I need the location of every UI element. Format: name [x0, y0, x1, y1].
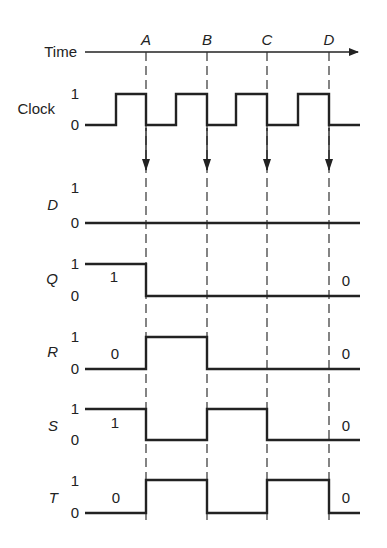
waveform	[85, 94, 360, 125]
waveform	[85, 337, 360, 369]
signal-t: T 1 0 0 0	[49, 472, 360, 521]
clock-edge-arrows	[146, 128, 329, 170]
start-value: 1	[111, 414, 119, 431]
low-label: 0	[71, 116, 79, 133]
end-value: 0	[342, 345, 350, 362]
start-value: 0	[112, 489, 120, 506]
waveform	[85, 409, 360, 440]
time-axis-label: Time	[44, 43, 77, 60]
end-value: 0	[342, 417, 350, 434]
start-value: 0	[111, 345, 119, 362]
signal-d: D 1 0	[47, 179, 360, 231]
signal-name: Q	[46, 270, 58, 287]
signal-name: R	[47, 343, 58, 360]
signal-s: S 1 0 1 0	[48, 400, 360, 448]
high-label: 1	[71, 472, 79, 489]
signal-name: S	[48, 417, 58, 434]
marker-b: B	[202, 31, 212, 48]
signal-clock: Clock 1 0	[17, 85, 360, 133]
end-value: 0	[342, 489, 350, 506]
signal-name: D	[47, 196, 58, 213]
marker-a: A	[140, 31, 151, 48]
marker-d: D	[324, 31, 335, 48]
guide-lines	[146, 52, 329, 520]
signal-name: T	[49, 489, 60, 506]
signal-name: Clock	[17, 100, 55, 117]
signal-r: R 1 0 0 0	[47, 328, 360, 377]
high-label: 1	[71, 255, 79, 272]
low-label: 0	[71, 431, 79, 448]
timing-diagram: Time A B C D Clock 1 0 D 1 0 Q 1 0 1 0	[0, 0, 387, 548]
low-label: 0	[71, 360, 79, 377]
waveform	[85, 480, 360, 513]
low-label: 0	[71, 287, 79, 304]
waveform	[85, 264, 360, 296]
high-label: 1	[71, 328, 79, 345]
high-label: 1	[71, 400, 79, 417]
high-label: 1	[71, 179, 79, 196]
end-value: 0	[342, 272, 350, 289]
high-label: 1	[71, 85, 79, 102]
marker-c: C	[262, 31, 273, 48]
start-value: 1	[110, 268, 118, 285]
signal-q: Q 1 0 1 0	[46, 255, 360, 304]
low-label: 0	[71, 504, 79, 521]
low-label: 0	[71, 214, 79, 231]
